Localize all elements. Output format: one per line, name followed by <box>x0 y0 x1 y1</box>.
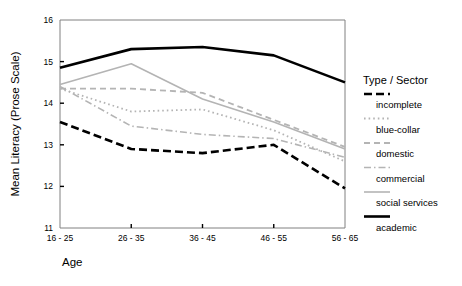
y-tick-label: 16 <box>44 15 54 25</box>
x-tick-label: 26 - 35 <box>118 233 145 243</box>
legend-label-social-services: social services <box>376 197 438 208</box>
x-axis-title: Age <box>62 256 82 268</box>
legend-label-blue-collar: blue-collar <box>376 124 420 135</box>
legend-label-domestic: domestic <box>376 148 414 159</box>
y-axis-title: Mean Literacy (Prose Scale) <box>9 51 21 196</box>
figure-background <box>0 0 462 286</box>
y-tick-label: 12 <box>44 181 54 191</box>
x-tick-label: 36 - 45 <box>189 233 216 243</box>
x-tick-label: 46 - 55 <box>261 233 288 243</box>
chart-figure: 111213141516 16 - 2526 - 3536 - 4546 - 5… <box>0 0 462 286</box>
y-tick-label: 15 <box>44 57 54 67</box>
y-tick-label: 11 <box>44 223 53 233</box>
x-tick-label: 56 - 65 <box>332 233 359 243</box>
y-tick-label: 14 <box>44 98 54 108</box>
legend-label-academic: academic <box>376 222 417 233</box>
legend-label-incomplete: incomplete <box>376 99 422 110</box>
legend-title: Type / Sector <box>363 74 428 86</box>
line-chart: 111213141516 16 - 2526 - 3536 - 4546 - 5… <box>0 0 462 286</box>
y-tick-label: 13 <box>44 140 54 150</box>
x-tick-label: 16 - 25 <box>47 233 74 243</box>
legend-label-commercial: commercial <box>376 173 425 184</box>
